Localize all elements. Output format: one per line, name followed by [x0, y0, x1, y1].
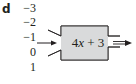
- machine-expression: 4x + 3: [68, 35, 108, 51]
- input-funnel-top: [48, 30, 61, 36]
- output-arrow-icon: [113, 40, 132, 46]
- input-arrow-icon: [37, 41, 57, 46]
- input-funnel-bottom: [48, 50, 61, 56]
- expression-constant: + 3: [84, 35, 104, 50]
